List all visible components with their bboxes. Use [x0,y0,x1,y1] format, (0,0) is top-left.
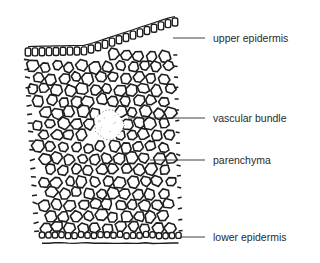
cell-wall-stub [28,131,33,132]
epidermal-cell [116,36,122,44]
parenchyma-cell [84,211,94,221]
parenchyma-cell [113,153,124,165]
parenchyma-cell [159,119,169,128]
parenchyma-cell [76,176,87,188]
parenchyma-cell [166,84,177,94]
epidermal-cell [172,18,178,26]
cell-wall-stub [178,197,182,198]
parenchyma-cell [151,61,162,72]
parenchyma-cell [140,61,150,70]
epidermal-cell [53,47,59,55]
cell-wall-stub [24,59,29,60]
parenchyma-cell [101,153,112,164]
parenchyma-cell [77,105,89,117]
parenchyma-cell [103,176,113,186]
cell-wall-stub [33,213,38,214]
lower-cuticle [42,243,179,244]
parenchyma-cell [120,96,130,107]
parenchyma-cell [127,108,136,118]
upper-epidermis-cells [25,17,178,57]
parenchyma-cell [72,163,82,174]
parenchyma-cell [79,201,89,210]
parenchyma-cell [72,187,81,196]
parenchyma-cell [113,177,126,188]
epidermal-cell [117,231,122,237]
parenchyma-cell [84,144,94,153]
cell-wall-stub [34,222,39,224]
parenchyma-cell [121,74,132,85]
parenchyma-cell [59,188,70,199]
parenchyma-cell [140,105,153,117]
epidermal-cell [91,233,96,239]
parenchyma-cell [107,187,120,199]
parenchyma-cell [39,83,49,92]
epidermal-cell [163,233,168,239]
parenchyma-cell [96,164,108,175]
parenchyma-cell [127,176,139,188]
parenchyma-cell [63,130,73,140]
parenchyma-cell [127,199,137,209]
epidermal-cell [39,232,44,238]
parenchyma-cell [102,84,112,94]
cell-wall-stub [27,114,32,115]
parenchyma-cell [109,48,120,60]
epidermal-cell [150,232,155,238]
epidermal-cell [98,232,103,238]
parenchyma-cell [154,153,166,165]
epidermal-cell [143,231,148,237]
cell-wall-stub [177,175,181,176]
parenchyma-cell [116,201,127,210]
parenchyma-cell [144,188,154,200]
xylem-dot [99,120,100,121]
parenchyma-cell [28,84,37,94]
xylem-dot [101,127,102,128]
parenchyma-cell [76,83,88,95]
parenchyma-cell [164,130,175,140]
epidermal-cell [25,48,31,56]
label-lower-epidermis: lower epidermis [213,231,287,243]
parenchyma-cell [164,107,177,118]
parenchyma-cell [121,51,133,61]
parenchyma-cell [114,86,127,97]
xylem-dot [100,129,101,130]
parenchyma-cell [46,164,56,175]
parenchyma-cell [147,52,157,62]
parenchyma-cell [90,176,100,187]
parenchyma-cell [47,95,57,106]
epidermal-cell [104,232,109,238]
epidermal-cell [102,40,108,48]
cell-wall-stub [174,66,178,67]
epidermal-cell [130,232,135,238]
parenchyma-cell [133,72,145,83]
parenchyma-cell [45,119,56,127]
epidermal-cell [156,233,161,239]
xylem-dot [104,118,105,119]
parenchyma-cell [116,61,126,71]
parenchyma-cell [145,211,156,224]
parenchyma-cell [78,155,88,164]
parenchyma-cell [64,154,75,165]
cell-wall-stub [174,87,178,88]
cell-wall-stub [27,105,32,106]
label-vascular-bundle: vascular bundle [213,112,287,124]
parenchyma-cell [101,199,112,210]
parenchyma-cell [45,141,55,151]
parenchyma-cell [108,72,118,81]
parenchyma-cell [72,143,82,152]
parenchyma-cell [70,211,82,222]
parenchyma-cell [129,62,139,72]
parenchyma-cell [138,200,150,212]
parenchyma-cell [102,61,113,72]
cell-wall-stub [30,168,35,169]
xylem-dot [115,115,116,116]
cell-wall-stub [175,120,179,121]
parenchyma-cell [51,199,62,210]
parenchyma-cell [64,223,76,234]
parenchyma-cell [138,153,149,163]
epidermal-cell [85,232,90,238]
parenchyma-cell [40,63,50,72]
epidermal-cell [81,47,87,55]
parenchyma-cell [71,72,81,82]
parenchyma-cell [76,60,88,72]
parenchyma-cell [95,141,105,152]
